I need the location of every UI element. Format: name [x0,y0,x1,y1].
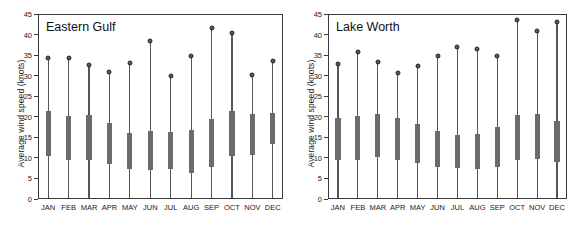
y-axis-tick-label: 20 [302,112,322,121]
y-axis-tick-label: 15 [12,133,32,142]
max-value-marker [270,59,275,64]
y-axis-tick-mark [324,199,328,200]
y-axis-tick-mark [324,14,328,15]
y-axis-tick-label: 10 [302,153,322,162]
max-value-marker [515,18,520,23]
x-axis-tick-label-oct: OCT [224,203,240,212]
x-axis-tick-label-dec: DEC [549,203,565,212]
max-value-marker [555,19,560,24]
max-value-marker [66,55,71,60]
y-axis-tick-mark [34,116,38,117]
range-box [250,114,255,155]
y-axis-tick-mark [34,34,38,35]
y-axis-tick-mark [324,157,328,158]
x-axis-tick-label-nov: NOV [529,203,545,212]
whisker-line [437,56,438,197]
max-value-marker [475,47,480,52]
y-axis-tick-label: 45 [12,10,32,19]
y-axis-tick-mark [34,199,38,200]
x-axis-tick-label-jan: JAN [331,203,345,212]
y-axis-tick-mark [324,116,328,117]
plot-area-lake-worth: 051015202530354045JANFEBMARAPRMAYJUNJULA… [290,0,574,227]
x-axis-tick-label-sep: SEP [490,203,505,212]
max-value-marker [335,62,340,67]
y-axis-tick-mark [324,96,328,97]
x-axis-tick-label-apr: APR [102,203,117,212]
chart-panel-eastern-gulf: Average wind speed (knots) 0510152025303… [0,0,290,227]
range-box [168,132,173,169]
y-axis-tick-label: 0 [12,195,32,204]
x-axis-tick-label-aug: AUG [183,203,199,212]
y-axis-tick-label: 25 [302,92,322,101]
y-axis-tick-mark [34,157,38,158]
plot-frame [38,14,283,199]
chart-title-eastern-gulf: Eastern Gulf [46,20,115,34]
x-axis-tick-label-mar: MAR [369,203,386,212]
y-axis-tick-mark [34,55,38,56]
x-axis-tick-label-feb: FEB [351,203,366,212]
y-axis-tick-label: 30 [302,71,322,80]
max-value-marker [168,74,173,79]
plot-area-eastern-gulf: 051015202530354045JANFEBMARAPRMAYJUNJULA… [0,0,290,227]
range-box [66,116,71,161]
whisker-line [129,63,130,198]
range-box [209,119,214,167]
whisker-line [150,41,151,198]
range-box [475,134,480,169]
range-box [554,121,559,163]
range-box [270,113,275,144]
x-axis-tick-label-may: MAY [122,203,138,212]
y-axis-tick-label: 40 [302,30,322,39]
chart-title-lake-worth: Lake Worth [336,20,400,34]
max-value-marker [415,64,420,69]
max-value-marker [375,59,380,64]
y-axis-tick-label: 35 [302,51,322,60]
whisker-line [556,22,557,198]
y-axis-tick-mark [324,137,328,138]
whisker-line [457,47,458,197]
wind-speed-figure: Average wind speed (knots) 0510152025303… [0,0,574,227]
range-box [515,115,520,160]
max-value-marker [435,54,440,59]
y-axis-tick-label: 35 [12,51,32,60]
x-axis-tick-label-jul: JUL [164,203,177,212]
range-box [395,118,400,160]
max-value-marker [250,73,255,78]
x-axis-tick-label-nov: NOV [244,203,260,212]
range-box [46,111,51,156]
range-box [455,135,460,168]
max-value-marker [107,69,112,74]
y-axis-tick-label: 5 [12,174,32,183]
y-axis-tick-label: 40 [12,30,32,39]
range-box [189,130,194,173]
range-box [535,114,540,159]
max-value-marker [189,53,194,58]
range-box [335,118,340,160]
range-box [355,116,360,160]
range-box [415,124,420,163]
range-box [127,133,132,169]
y-axis-tick-label: 0 [302,195,322,204]
max-value-marker [395,71,400,76]
y-axis-tick-label: 30 [12,71,32,80]
y-axis-tick-mark [324,178,328,179]
y-axis-tick-label: 10 [12,153,32,162]
y-axis-tick-mark [34,75,38,76]
max-value-marker [209,25,214,30]
max-value-marker [148,38,153,43]
x-axis-tick-label-jul: JUL [451,203,464,212]
max-value-marker [455,45,460,50]
x-axis-tick-label-jun: JUN [143,203,158,212]
whisker-line [191,56,192,198]
chart-panel-lake-worth: Average wind speed (knots) 0510152025303… [290,0,574,227]
x-axis-tick-label-feb: FEB [61,203,76,212]
max-value-marker [355,50,360,55]
whisker-line [477,49,478,197]
range-box [107,123,112,163]
max-value-marker [87,62,92,67]
x-axis-tick-label-jan: JAN [41,203,55,212]
max-value-marker [46,56,51,61]
x-axis-tick-label-apr: APR [390,203,405,212]
range-box [86,115,91,160]
y-axis-tick-mark [34,14,38,15]
